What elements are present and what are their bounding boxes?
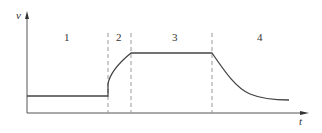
- region-dividers: [108, 33, 212, 113]
- region-labels: 1 2 3 4: [64, 31, 263, 43]
- velocity-time-diagram: v t 1 2 3 4: [0, 0, 322, 133]
- y-axis-arrow-icon: [25, 11, 29, 19]
- region-label-4: 4: [257, 31, 263, 43]
- y-axis: v: [16, 9, 29, 113]
- region-label-2: 2: [116, 31, 122, 43]
- x-axis-label: t: [299, 115, 303, 127]
- region-label-3: 3: [172, 31, 178, 43]
- velocity-curve: [27, 53, 289, 100]
- region-label-1: 1: [64, 31, 70, 43]
- x-axis: t: [27, 111, 309, 127]
- y-axis-label: v: [16, 9, 21, 21]
